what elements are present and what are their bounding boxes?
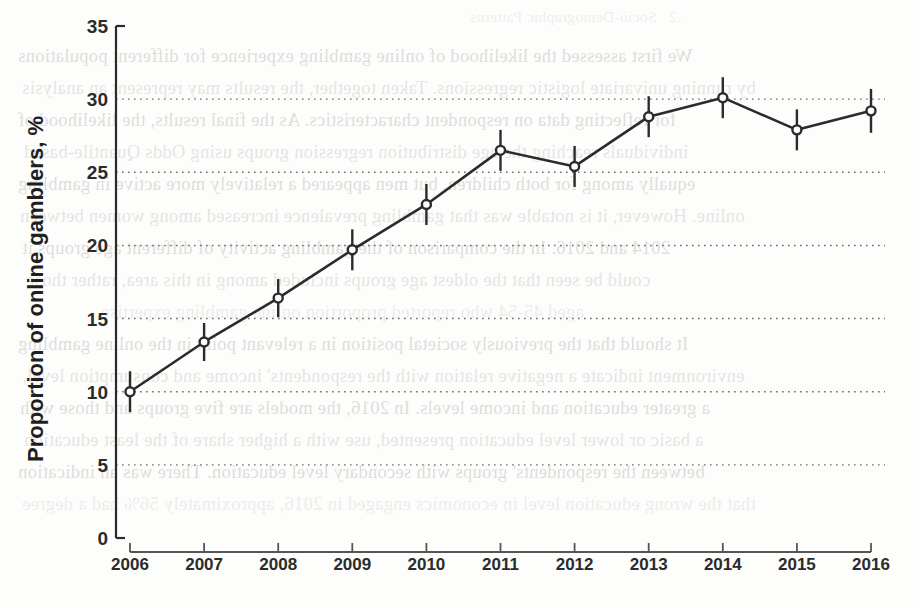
axis-lines [116, 26, 871, 552]
plot-canvas [0, 0, 920, 608]
line-chart: Proportion of online gamblers, % 0510152… [0, 0, 920, 608]
error-bars [130, 77, 871, 412]
